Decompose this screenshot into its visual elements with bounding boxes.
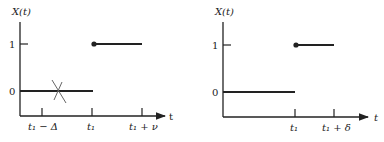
right-x-tick-label-t1: t₁ <box>290 122 298 133</box>
right-y-axis-label: X(t) <box>214 6 234 17</box>
right-y-tick-label-0: 0 <box>212 87 218 98</box>
right-x-tick-label-t1-plus-delta: t₁ + δ <box>322 122 351 133</box>
right-x-axis-label: t <box>374 112 379 123</box>
left-x-axis-label: t <box>169 111 173 122</box>
left-x-tick-label-t1: t₁ <box>87 121 95 132</box>
left-y-axis-label: X(t) <box>11 6 31 17</box>
step-function-figure: X(t) t 1 0 t₁ − Δ t₁ t₁ + ν X(t) t 1 0 <box>0 0 384 142</box>
left-plot: X(t) t 1 0 t₁ − Δ t₁ t₁ + ν <box>9 6 173 132</box>
right-y-tick-label-1: 1 <box>212 40 218 51</box>
left-x-tick-label-t1-minus-delta: t₁ − Δ <box>28 121 58 132</box>
left-x-tick-label-t1-plus-nu: t₁ + ν <box>129 121 158 132</box>
left-y-tick-label-0: 0 <box>9 86 15 97</box>
left-y-tick-label-1: 1 <box>9 39 15 50</box>
right-plot: X(t) t 1 0 t₁ t₁ + δ <box>212 6 379 133</box>
